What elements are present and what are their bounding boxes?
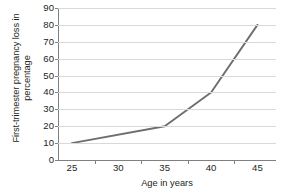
y-axis-tick-mark <box>55 143 58 144</box>
chart-figure: First-trimester pregnancy loss in percen… <box>0 0 286 196</box>
y-axis-tick-mark <box>55 76 58 77</box>
y-axis-title-line-1: First-trimester pregnancy loss in <box>11 14 22 143</box>
data-series-line <box>58 8 276 160</box>
y-axis-tick-label: 0 <box>30 155 54 165</box>
grid-line <box>58 76 276 77</box>
grid-line <box>58 59 276 60</box>
y-axis-tick-label: 40 <box>30 88 54 98</box>
y-axis-tick-label: 80 <box>30 20 54 30</box>
y-axis-tick-label: 30 <box>30 105 54 115</box>
y-axis-tick-mark <box>55 109 58 110</box>
x-axis-tick-label: 25 <box>57 163 87 173</box>
grid-line <box>58 8 276 9</box>
y-axis-tick-mark <box>55 59 58 60</box>
y-axis-tick-label: 60 <box>30 54 54 64</box>
grid-line <box>58 42 276 43</box>
x-axis-tick-label: 35 <box>150 163 180 173</box>
y-axis-tick-labels: 0102030405060708090 <box>30 8 54 160</box>
x-axis-tick-labels: 2530354045 <box>58 163 276 177</box>
x-axis-tick-label: 45 <box>242 163 272 173</box>
y-axis-tick-mark <box>55 126 58 127</box>
y-axis-tick-label: 50 <box>30 71 54 81</box>
y-axis-tick-mark <box>55 8 58 9</box>
y-axis-tick-mark <box>55 92 58 93</box>
x-axis-title: Age in years <box>58 179 276 188</box>
x-axis-line <box>58 160 276 161</box>
y-axis-tick-label: 10 <box>30 138 54 148</box>
grid-line <box>58 92 276 93</box>
grid-line <box>58 109 276 110</box>
y-axis-tick-label: 20 <box>30 121 54 131</box>
y-axis-tick-mark <box>55 25 58 26</box>
x-axis-tick-label: 40 <box>196 163 226 173</box>
grid-line <box>58 25 276 26</box>
x-axis-tick-label: 30 <box>103 163 133 173</box>
y-axis-tick-label: 90 <box>30 3 54 13</box>
grid-line <box>58 143 276 144</box>
y-axis-tick-label: 70 <box>30 37 54 47</box>
y-axis-tick-mark <box>55 160 58 161</box>
y-axis-tick-mark <box>55 42 58 43</box>
grid-line <box>58 126 276 127</box>
plot-area <box>58 8 276 160</box>
